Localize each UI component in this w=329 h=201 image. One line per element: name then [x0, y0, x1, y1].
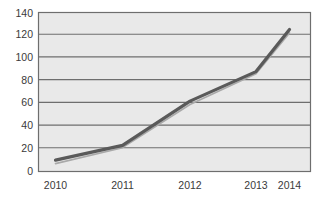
y-tick-label-60: 60 [21, 96, 33, 108]
x-tick-label-2014: 2014 [278, 179, 302, 191]
y-tick-label-140: 140 [15, 7, 33, 19]
y-tick-label-100: 100 [15, 51, 33, 63]
y-tick-label-80: 80 [21, 74, 33, 86]
y-tick-label-40: 40 [21, 119, 33, 131]
x-tick-label-2013: 2013 [244, 179, 268, 191]
chart-container: 140 120 100 80 60 40 20 0 2010 2011 2012… [0, 0, 329, 201]
x-tick-label-2012: 2012 [178, 179, 202, 191]
y-axis-tick-labels: 140 120 100 80 60 40 20 0 [15, 7, 33, 178]
x-tick-label-2011: 2011 [111, 179, 134, 191]
x-tick-label-2010: 2010 [44, 179, 68, 191]
y-tick-label-20: 20 [21, 142, 33, 154]
x-axis-tick-labels: 2010 2011 2012 2013 2014 [44, 179, 302, 191]
y-tick-label-0: 0 [27, 165, 33, 177]
y-tick-label-120: 120 [15, 28, 33, 40]
line-chart: 140 120 100 80 60 40 20 0 2010 2011 2012… [0, 0, 329, 201]
